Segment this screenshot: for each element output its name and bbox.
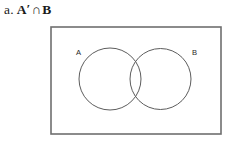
venn-diagram-svg: A B (0, 0, 233, 148)
venn-figure: a. A′∩B A B (0, 0, 233, 148)
set-label-a: A (76, 48, 82, 57)
set-label-b: B (192, 48, 197, 57)
universal-set-rectangle (51, 27, 221, 134)
